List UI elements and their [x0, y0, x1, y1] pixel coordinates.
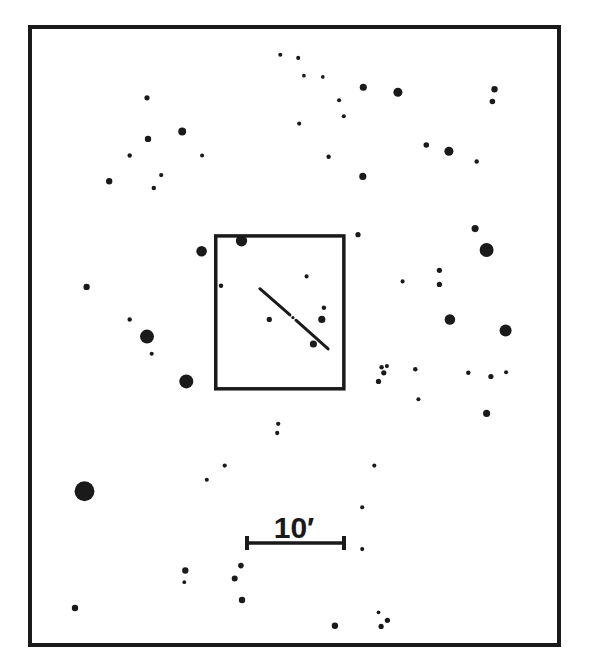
star-19 — [474, 159, 478, 163]
star-59 — [372, 464, 376, 468]
star-14 — [424, 142, 430, 148]
star-37 — [267, 317, 272, 322]
star-9 — [337, 98, 341, 102]
star-18 — [326, 154, 330, 158]
star-51 — [504, 370, 508, 374]
star-66 — [232, 576, 238, 582]
star-48 — [413, 367, 417, 371]
star-63 — [182, 567, 188, 573]
star-33 — [437, 282, 442, 287]
star-12 — [178, 128, 186, 136]
star-10 — [342, 114, 346, 118]
star-72 — [378, 624, 383, 629]
star-56 — [275, 431, 279, 435]
star-47 — [376, 379, 381, 384]
star-7 — [490, 99, 496, 105]
star-30 — [437, 268, 442, 273]
star-32 — [401, 279, 405, 283]
star-2 — [302, 74, 306, 78]
star-40 — [500, 324, 512, 336]
star-28 — [480, 243, 494, 257]
star-60 — [75, 481, 95, 501]
star-61 — [360, 505, 364, 509]
star-8 — [144, 95, 149, 100]
star-6 — [491, 86, 497, 92]
finder-chart: 10′ — [0, 0, 591, 669]
star-65 — [238, 563, 244, 569]
star-62 — [360, 547, 364, 551]
star-42 — [310, 340, 317, 347]
star-4 — [360, 84, 367, 91]
star-35 — [322, 306, 326, 310]
scale-bar-label: 10′ — [274, 511, 315, 544]
star-67 — [239, 597, 245, 603]
star-58 — [205, 478, 209, 482]
star-38 — [318, 316, 325, 323]
star-57 — [223, 463, 227, 467]
star-50 — [488, 374, 493, 379]
star-39 — [445, 314, 456, 325]
star-1 — [296, 56, 300, 60]
star-69 — [332, 623, 338, 629]
star-29 — [219, 283, 223, 287]
star-11 — [297, 122, 301, 126]
galaxy-nucleus — [291, 316, 294, 319]
star-43 — [150, 352, 154, 356]
star-52 — [179, 374, 193, 388]
star-31 — [305, 274, 309, 278]
star-49 — [466, 371, 470, 375]
star-3 — [321, 75, 325, 79]
star-24 — [472, 225, 479, 232]
star-64 — [182, 580, 186, 584]
star-46 — [381, 370, 386, 375]
star-21 — [359, 173, 366, 180]
star-0 — [278, 53, 282, 57]
star-41 — [140, 330, 154, 344]
star-34 — [83, 284, 89, 290]
star-27 — [196, 246, 207, 257]
star-16 — [127, 153, 131, 157]
star-17 — [200, 153, 204, 157]
star-25 — [355, 232, 360, 237]
star-20 — [159, 173, 163, 177]
star-71 — [385, 618, 390, 623]
star-53 — [416, 397, 420, 401]
star-15 — [444, 147, 453, 156]
star-45 — [385, 364, 389, 368]
star-68 — [72, 605, 78, 611]
star-5 — [393, 88, 402, 97]
star-23 — [152, 186, 156, 190]
star-22 — [106, 178, 112, 184]
star-44 — [379, 365, 383, 369]
star-13 — [145, 136, 151, 142]
star-55 — [276, 422, 280, 426]
star-36 — [127, 317, 131, 321]
star-70 — [377, 610, 381, 614]
star-54 — [483, 410, 490, 417]
